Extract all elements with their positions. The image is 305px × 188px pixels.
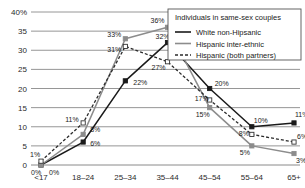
data-label: 32% <box>156 33 170 40</box>
legend-item-label: White non-Hipsanic <box>196 28 261 37</box>
data-label: 8% <box>90 126 100 133</box>
data-label: 33% <box>107 31 121 38</box>
data-label: 20% <box>215 80 229 87</box>
line-chart: 40%35302520151050 <1718–2425–3435–4445–5… <box>0 0 305 188</box>
data-point-marker <box>81 140 85 144</box>
data-label: 17% <box>195 95 209 102</box>
data-point-marker <box>81 121 85 125</box>
data-point-marker <box>208 86 212 90</box>
chart-container: 40%35302520151050 <1718–2425–3435–4445–5… <box>0 0 305 188</box>
legend-title: Individuals in same-sex couples <box>175 13 281 22</box>
x-axis-label: 25–34 <box>114 173 137 182</box>
data-point-marker <box>123 79 127 83</box>
data-label: 11% <box>65 116 79 123</box>
y-axis-label: 5 <box>23 142 28 151</box>
data-label: 15% <box>196 111 210 118</box>
data-point-marker <box>250 144 254 148</box>
x-axis-label: 45–54 <box>199 173 222 182</box>
legend-item-label: Hispanic (both partners) <box>196 51 277 60</box>
y-axis-label: 40% <box>11 8 27 17</box>
data-point-marker <box>123 44 127 48</box>
data-point-marker <box>208 106 212 110</box>
chart-legend: Individuals in same-sex couplesWhite non… <box>168 9 301 60</box>
x-axis-label: 65+ <box>287 173 301 182</box>
data-label: 31% <box>107 46 121 53</box>
data-label: 3% <box>296 157 305 164</box>
x-axis-tick-labels: <1718–2425–3435–4445–5455–6465+ <box>34 173 301 182</box>
data-point-marker <box>39 159 43 163</box>
data-label: 11% <box>295 111 305 118</box>
y-axis-label: 20 <box>18 85 27 94</box>
data-point-marker <box>292 151 296 155</box>
data-label: 0% <box>31 169 41 176</box>
x-axis-label: 18–24 <box>72 173 95 182</box>
y-axis-label: 30 <box>18 46 27 55</box>
data-point-marker <box>81 132 85 136</box>
data-point-marker <box>292 140 296 144</box>
x-axis-label: 35–44 <box>156 173 179 182</box>
data-point-marker <box>292 121 296 125</box>
data-label: 6% <box>90 140 100 147</box>
y-axis-label: 0 <box>23 161 28 170</box>
data-point-marker <box>250 125 254 129</box>
data-label: 27% <box>152 64 166 71</box>
data-label: 5% <box>240 149 250 156</box>
y-axis-label: 25 <box>18 65 27 74</box>
legend-item-label: Hispanic inter-ethnic <box>196 40 264 49</box>
y-axis-tick-labels: 40%35302520151050 <box>11 8 28 170</box>
data-label: 8% <box>239 130 249 137</box>
data-label: 1% <box>30 151 40 158</box>
y-axis-label: 15 <box>18 104 27 113</box>
data-label: 10% <box>254 117 268 124</box>
data-label: 36% <box>151 17 165 24</box>
y-axis-label: 10 <box>18 123 27 132</box>
data-label: 6% <box>297 133 305 140</box>
y-axis-label: 35 <box>18 27 27 36</box>
data-point-marker <box>250 132 254 136</box>
x-axis-label: 55–64 <box>241 173 264 182</box>
data-point-marker <box>123 37 127 41</box>
data-label: 22% <box>133 79 147 86</box>
data-label: 0% <box>49 169 59 176</box>
